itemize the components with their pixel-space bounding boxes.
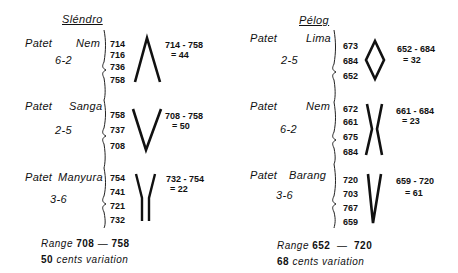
cents-label: cents variation xyxy=(56,254,128,265)
patet-name: Manyura xyxy=(58,171,103,183)
narrow-v-shape-icon xyxy=(365,172,385,226)
lambda-shape-icon xyxy=(133,36,163,86)
slendro-brace xyxy=(100,30,108,262)
range-difference: = 22 xyxy=(170,184,188,195)
patet-name: Nem xyxy=(306,100,330,112)
range-difference: = 50 xyxy=(172,121,190,132)
pelog-range-line: Range 652 — 720 xyxy=(277,240,372,251)
value: 758 xyxy=(110,76,125,85)
range-label: Range xyxy=(277,240,309,251)
value: 672 xyxy=(343,105,358,114)
patet-numbers: 2-5 xyxy=(281,54,298,66)
value: 684 xyxy=(343,148,358,157)
pelog-cents-line: 68 cents variation xyxy=(277,256,364,267)
patet-label: Patet xyxy=(250,169,277,181)
value: 767 xyxy=(343,204,358,213)
range-difference: = 44 xyxy=(171,50,189,61)
slendro-range-line: Range 708 — 758 xyxy=(41,238,130,249)
cents-value: 68 xyxy=(277,256,289,267)
v-shape-icon xyxy=(131,107,165,153)
value: 714 xyxy=(110,40,125,49)
patet-name: Lima xyxy=(306,32,331,44)
patet-name: Nem xyxy=(76,37,100,49)
value: 652 xyxy=(343,72,358,81)
patet-numbers: 3-6 xyxy=(276,189,293,201)
patet-numbers: 2-5 xyxy=(55,124,72,136)
value: 732 xyxy=(110,216,125,225)
diamond-shape-icon xyxy=(363,38,387,82)
slendro-title: Sléndro xyxy=(62,13,103,25)
slendro-cents-line: 50 cents variation xyxy=(41,254,128,265)
patet-label: Patet xyxy=(25,171,52,183)
range-label: Range xyxy=(41,238,73,249)
value: 736 xyxy=(110,63,125,72)
patet-numbers: 6-2 xyxy=(280,123,297,135)
value: 661 xyxy=(343,118,358,127)
range-expression: 659 - 720 xyxy=(396,176,434,187)
value: 754 xyxy=(110,174,125,183)
range-high: 758 xyxy=(112,238,130,249)
cents-label: cents variation xyxy=(292,256,364,267)
value: 708 xyxy=(110,142,125,151)
value: 758 xyxy=(110,111,125,120)
value: 720 xyxy=(343,176,358,185)
patet-name: Barang xyxy=(289,169,326,181)
range-difference: = 61 xyxy=(405,188,423,199)
patet-label: Patet xyxy=(250,100,277,112)
range-high: 720 xyxy=(354,240,372,251)
patet-numbers: 6-2 xyxy=(55,54,72,66)
range-difference: = 32 xyxy=(403,55,421,66)
value: 703 xyxy=(343,190,358,199)
range-dash: — xyxy=(98,238,109,249)
y-shape-icon xyxy=(133,172,159,224)
value: 684 xyxy=(343,57,358,66)
value: 741 xyxy=(110,188,125,197)
range-dash: — xyxy=(337,240,348,251)
pelog-brace xyxy=(330,30,338,262)
range-difference: = 23 xyxy=(402,116,420,127)
value: 737 xyxy=(110,126,125,135)
value: 659 xyxy=(343,218,358,227)
value: 721 xyxy=(110,202,125,211)
patet-label: Patet xyxy=(250,32,277,44)
range-low: 708 xyxy=(76,238,94,249)
patet-label: Patet xyxy=(25,100,52,112)
value: 673 xyxy=(343,42,358,51)
range-low: 652 xyxy=(312,240,330,251)
x-shape-icon xyxy=(362,102,386,158)
patet-name: Sanga xyxy=(69,100,102,112)
value: 716 xyxy=(110,51,125,60)
value: 675 xyxy=(343,133,358,142)
pelog-title: Pélog xyxy=(299,14,329,26)
range-expression: 652 - 684 xyxy=(397,44,435,55)
patet-label: Patet xyxy=(25,37,52,49)
cents-value: 50 xyxy=(41,254,53,265)
patet-numbers: 3-6 xyxy=(50,193,67,205)
